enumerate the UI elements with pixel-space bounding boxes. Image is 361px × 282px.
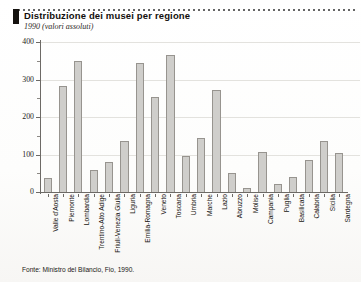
x-tick-label: Liguria	[129, 194, 136, 214]
x-tick-label-wrap: Valle d'Aosta	[50, 194, 57, 232]
x-tick-mark	[339, 194, 340, 197]
bar	[74, 61, 82, 192]
x-tick-label-wrap: Friuli-Venezia Giulia	[112, 194, 119, 253]
x-tick-mark	[232, 194, 233, 197]
x-tick-label-wrap: Veneto	[158, 194, 165, 215]
x-tick-mark	[109, 194, 110, 197]
bar	[182, 156, 190, 192]
bar	[136, 63, 144, 192]
x-tick-mark	[186, 194, 187, 197]
bar-series	[40, 42, 347, 192]
x-tick-label: Calabria	[313, 194, 320, 219]
plot-area: 0100200300400 Valle d'AostaPiemonteLomba…	[0, 0, 361, 282]
x-tick-label-wrap: Basilicata	[296, 194, 303, 222]
x-tick-mark	[170, 194, 171, 197]
x-tick-label: Toscana	[175, 194, 182, 219]
x-tick-label: Sicilia	[329, 194, 336, 211]
y-tick-label: 100	[22, 150, 34, 159]
x-tick-mark	[324, 194, 325, 197]
x-tick-label: Emilia-Romagna	[144, 194, 151, 243]
bar	[258, 152, 266, 193]
source-note: Fonte: Ministro del Bilancio, Fio, 1990.	[22, 266, 134, 273]
x-tick-label: Basilicata	[298, 194, 305, 222]
x-tick-mark	[155, 194, 156, 197]
x-tick-label-wrap: Toscana	[173, 194, 180, 219]
bar	[90, 170, 98, 192]
x-tick-label: Lombardia	[83, 194, 90, 225]
bar	[289, 177, 297, 192]
bar	[105, 162, 113, 192]
x-tick-label-wrap: Piemonte	[66, 194, 73, 222]
bar	[59, 86, 67, 192]
x-tick-mark	[278, 194, 279, 197]
bar	[228, 173, 236, 193]
x-tick-label-wrap: Puglia	[281, 194, 288, 212]
x-tick-label: Abruzzo	[236, 194, 243, 218]
bar	[151, 97, 159, 192]
x-tick-label-wrap: Campania	[265, 194, 272, 224]
x-tick-mark	[201, 194, 202, 197]
x-tick-mark	[94, 194, 95, 197]
bar	[320, 141, 328, 192]
x-tick-label-wrap: Sicilia	[327, 194, 334, 211]
x-tick-label: Trentino-Alto Adige	[98, 194, 105, 250]
bar	[44, 178, 52, 192]
x-axis-line	[40, 192, 348, 193]
x-tick-label-wrap: Lombardia	[81, 194, 88, 225]
y-tick-label: 0	[30, 187, 34, 196]
bar	[274, 184, 282, 192]
x-tick-label: Marche	[206, 194, 213, 216]
bar	[335, 153, 343, 192]
x-tick-label-wrap: Molise	[250, 194, 257, 213]
x-tick-label-wrap: Lazio	[219, 194, 226, 210]
x-tick-label-wrap: Marche	[204, 194, 211, 216]
bar	[212, 90, 220, 192]
y-axis-labels: 0100200300400	[0, 0, 34, 282]
x-tick-label: Veneto	[160, 194, 167, 215]
x-tick-mark	[247, 194, 248, 197]
x-tick-label-wrap: Calabria	[311, 194, 318, 219]
x-tick-mark	[48, 194, 49, 197]
x-tick-label-wrap: Sardegna	[342, 194, 349, 223]
x-tick-label: Lazio	[221, 194, 228, 210]
x-tick-label: Puglia	[283, 194, 290, 212]
x-tick-mark	[263, 194, 264, 197]
y-tick-label: 400	[22, 37, 34, 46]
chart-page: Distribuzione dei musei per regione 1990…	[0, 0, 361, 282]
x-tick-mark	[63, 194, 64, 197]
x-tick-label-wrap: Trentino-Alto Adige	[96, 194, 103, 250]
x-tick-mark	[217, 194, 218, 197]
y-tick-label: 300	[22, 75, 34, 84]
x-tick-label-wrap: Liguria	[127, 194, 134, 214]
x-tick-label: Sardegna	[344, 194, 351, 223]
x-tick-mark	[293, 194, 294, 197]
x-tick-label-wrap: Abruzzo	[234, 194, 241, 218]
x-tick-mark	[140, 194, 141, 197]
bar	[197, 138, 205, 192]
bar	[120, 141, 128, 192]
bar	[305, 160, 313, 192]
x-tick-label-wrap: Umbria	[188, 194, 195, 215]
x-tick-label-wrap: Emilia-Romagna	[142, 194, 149, 243]
x-tick-label: Molise	[252, 194, 259, 213]
x-tick-label: Umbria	[190, 194, 197, 215]
x-tick-label: Valle d'Aosta	[52, 194, 59, 232]
x-tick-label: Piemonte	[68, 194, 75, 222]
y-tick-label: 200	[22, 112, 34, 121]
x-tick-mark	[78, 194, 79, 197]
bar	[243, 188, 251, 192]
x-tick-label: Campania	[267, 194, 274, 224]
x-tick-label: Friuli-Venezia Giulia	[114, 194, 121, 253]
x-tick-mark	[124, 194, 125, 197]
x-tick-mark	[309, 194, 310, 197]
x-axis-labels: Valle d'AostaPiemonteLombardiaTrentino-A…	[40, 194, 347, 258]
bar	[166, 55, 174, 192]
